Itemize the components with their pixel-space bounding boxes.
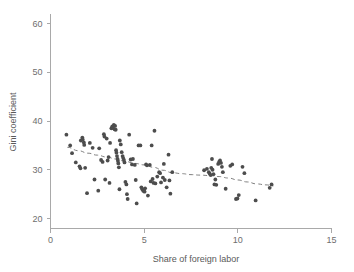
data-point	[150, 143, 154, 147]
data-points-group	[65, 123, 274, 205]
data-point	[113, 124, 117, 128]
data-point	[115, 151, 119, 155]
data-point	[158, 171, 162, 175]
data-point	[126, 197, 130, 201]
data-point	[114, 128, 118, 132]
data-point	[220, 165, 224, 169]
data-point	[124, 182, 128, 186]
data-point	[125, 192, 129, 196]
data-point	[153, 129, 157, 133]
data-point	[85, 191, 89, 195]
data-point	[168, 192, 172, 196]
data-point	[106, 159, 110, 163]
data-point	[214, 183, 218, 187]
data-point	[68, 143, 72, 147]
data-point	[167, 153, 171, 157]
data-point	[165, 185, 169, 189]
data-point	[134, 178, 138, 182]
data-point	[135, 201, 139, 205]
data-point	[79, 166, 83, 170]
data-point	[96, 189, 100, 193]
x-tick-label: 15	[326, 235, 336, 245]
x-axis-ticks: 051015	[48, 229, 337, 245]
data-point	[211, 168, 215, 172]
data-point	[146, 194, 150, 198]
data-point	[70, 151, 74, 155]
scatter-plot-figure: 2030405060 051015 Share of foreign labor…	[0, 0, 354, 272]
data-point	[268, 186, 272, 190]
data-point	[151, 177, 155, 181]
data-point	[120, 150, 124, 154]
data-point	[254, 199, 258, 203]
y-axis-title: Gini coefficient	[8, 92, 18, 151]
data-point	[205, 167, 209, 171]
data-point	[221, 170, 225, 174]
x-tick-label: 10	[233, 235, 243, 245]
x-axis-title: Share of foreign labor	[153, 254, 240, 264]
data-point	[242, 171, 246, 175]
data-point	[155, 175, 159, 179]
data-point	[270, 182, 274, 186]
data-point	[210, 157, 214, 161]
data-point	[74, 161, 78, 165]
y-axis-ticks: 2030405060	[32, 19, 50, 224]
data-point	[133, 163, 137, 167]
y-tick-label: 60	[32, 19, 42, 29]
data-point	[139, 143, 143, 147]
data-point	[91, 146, 95, 150]
data-point	[93, 178, 97, 182]
data-point	[159, 181, 163, 185]
y-tick-label: 30	[32, 165, 42, 175]
data-point	[65, 133, 69, 137]
data-point	[170, 170, 174, 174]
data-point	[117, 165, 121, 169]
data-point	[101, 160, 105, 164]
data-point	[118, 139, 122, 143]
data-point	[88, 141, 92, 145]
data-point	[163, 178, 167, 182]
data-point	[118, 187, 122, 191]
data-point	[154, 182, 158, 186]
data-point	[108, 181, 112, 185]
y-tick-label: 20	[32, 214, 42, 224]
data-point	[143, 190, 147, 194]
x-tick-label: 0	[48, 235, 53, 245]
data-point	[83, 166, 87, 170]
data-point	[119, 143, 123, 147]
chart-canvas: 2030405060 051015 Share of foreign labor…	[0, 0, 354, 272]
data-point	[97, 146, 101, 150]
data-point	[82, 143, 86, 147]
data-point	[237, 193, 241, 197]
data-point	[224, 187, 228, 191]
data-point	[213, 178, 217, 182]
x-tick-label: 5	[142, 235, 147, 245]
data-point	[168, 179, 172, 183]
y-tick-label: 40	[32, 116, 42, 126]
data-point	[108, 141, 112, 145]
data-point	[148, 163, 152, 167]
data-point	[241, 165, 245, 169]
data-point	[116, 162, 120, 166]
data-point	[131, 157, 135, 161]
data-point	[143, 186, 147, 190]
data-point	[162, 162, 166, 166]
data-point	[219, 161, 223, 165]
y-tick-label: 50	[32, 67, 42, 77]
data-point	[212, 172, 216, 176]
data-point	[236, 197, 240, 201]
data-point	[107, 155, 111, 159]
data-point	[230, 162, 234, 166]
data-point	[105, 137, 109, 141]
data-point	[123, 161, 127, 165]
data-point	[103, 178, 107, 182]
data-point	[127, 133, 131, 137]
